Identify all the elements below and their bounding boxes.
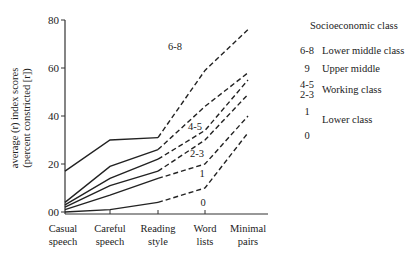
series-inline-label: 6-8 bbox=[168, 41, 182, 52]
x-tick-label: speech bbox=[49, 236, 78, 247]
x-tick-label: speech bbox=[96, 236, 125, 247]
legend-key: 1 bbox=[296, 106, 318, 117]
x-tick-label: Careful bbox=[94, 223, 126, 234]
series-inline-label: 2-3 bbox=[190, 148, 204, 159]
legend-label-lower-class: Lower class bbox=[322, 114, 372, 125]
series-line-dashed bbox=[158, 73, 248, 150]
series-inline-label: 4-5 bbox=[188, 121, 202, 132]
legend-entry-0: 0 bbox=[296, 130, 318, 141]
series-4-5 bbox=[65, 80, 248, 205]
legend-key: 6-8 bbox=[296, 45, 318, 56]
x-tick-label: Minimal bbox=[230, 223, 266, 234]
y-tick-label: 80 bbox=[48, 14, 60, 26]
legend-key: 4-52-3 bbox=[296, 80, 318, 100]
series-inline-label: 1 bbox=[199, 168, 204, 179]
line-chart: 0020406080CasualspeechCarefulspeechReadi… bbox=[0, 0, 411, 256]
data-lines bbox=[65, 30, 248, 212]
legend-key-line: 2-3 bbox=[300, 89, 314, 100]
legend-label: Lower middle class bbox=[322, 45, 404, 56]
x-tick-label: lists bbox=[197, 236, 214, 247]
series-line-dashed bbox=[158, 94, 248, 171]
y-tick-label: 60 bbox=[48, 62, 60, 74]
x-tick-label: pairs bbox=[238, 236, 258, 247]
series-1 bbox=[65, 116, 248, 210]
legend-entry-6-8: 6-8Lower middle class bbox=[296, 45, 404, 56]
legend-label: Working class bbox=[322, 84, 382, 95]
y-tick-label: 00 bbox=[48, 206, 60, 218]
x-tick-label: Reading bbox=[141, 223, 177, 234]
legend-entry-working: 4-52-3Working class bbox=[296, 80, 382, 100]
series-line-solid bbox=[65, 202, 158, 212]
legend-title: Socioeconomic class bbox=[310, 20, 398, 31]
legend-label: Upper middle bbox=[322, 63, 380, 74]
series-inline-label: 0 bbox=[200, 197, 205, 208]
legend-entry-9: 9Upper middle bbox=[296, 63, 380, 74]
x-tick-label: Casual bbox=[49, 223, 78, 234]
legend-key: 9 bbox=[296, 63, 318, 74]
legend-entry-1: 1 bbox=[296, 106, 318, 117]
series-line-solid bbox=[65, 171, 158, 207]
y-axis-label: average (r) index scores bbox=[9, 68, 21, 169]
y-tick-label: 20 bbox=[48, 158, 60, 170]
legend-key: 0 bbox=[296, 130, 318, 141]
y-tick-label: 40 bbox=[48, 110, 60, 122]
y-axis-label: (percent constricted [r]) bbox=[21, 68, 33, 168]
x-tick-label: style bbox=[148, 236, 168, 247]
x-tick-label: Word bbox=[193, 223, 217, 234]
axes bbox=[61, 20, 268, 214]
